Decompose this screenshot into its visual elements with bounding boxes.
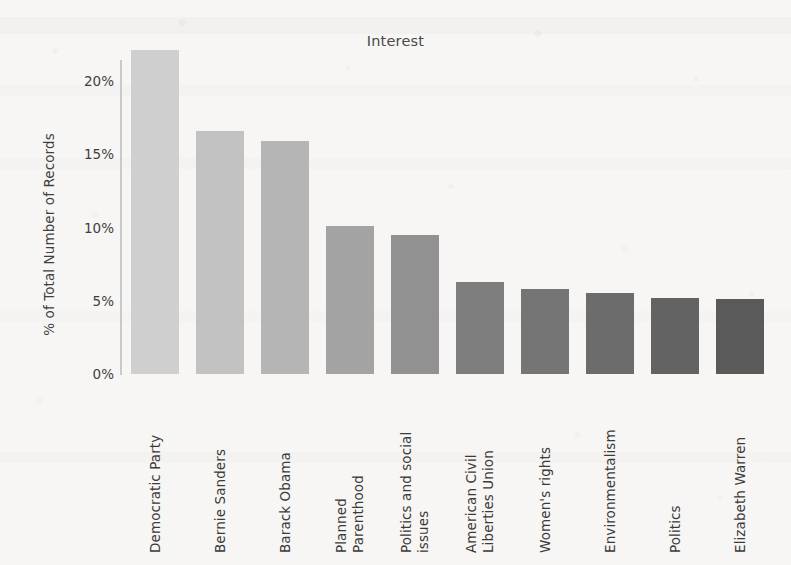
bar[interactable]: [521, 289, 569, 374]
x-axis-tick-label[interactable]: Politics: [642, 378, 707, 563]
y-axis-tick-label: 10%: [54, 220, 114, 236]
x-axis-tick-labels: Democratic PartyBernie SandersBarack Oba…: [122, 378, 772, 563]
x-axis-tick-label[interactable]: Bernie Sanders: [187, 378, 252, 563]
x-axis-tick-label-line: Politics and social: [398, 432, 415, 553]
bar[interactable]: [131, 50, 179, 374]
x-axis-tick-label-line: Women's rights: [536, 447, 553, 553]
bar[interactable]: [196, 131, 244, 374]
x-axis-tick-label-line: Democratic Party: [146, 435, 163, 553]
x-axis-tick-label-line: American Civil: [463, 454, 480, 553]
y-axis-tick-label: 0%: [54, 366, 114, 382]
bar[interactable]: [651, 298, 699, 374]
x-axis-tick-label[interactable]: Women's rights: [512, 378, 577, 563]
x-axis-tick-label-line: Elizabeth Warren: [731, 437, 748, 553]
x-axis-tick-label-line: Politics: [666, 505, 683, 553]
x-axis-tick-label[interactable]: Politics and socialissues: [382, 378, 447, 563]
bar[interactable]: [261, 141, 309, 374]
bar[interactable]: [456, 282, 504, 374]
x-axis-tick-label-line: Bernie Sanders: [211, 449, 228, 553]
x-axis-tick-label[interactable]: Democratic Party: [122, 378, 187, 563]
x-axis-tick-label[interactable]: Elizabeth Warren: [707, 378, 772, 563]
bar[interactable]: [586, 293, 634, 374]
bar[interactable]: [326, 226, 374, 374]
x-axis-tick-label-line: Parenthood: [350, 475, 367, 553]
x-axis-tick-label[interactable]: Environmentalism: [577, 378, 642, 563]
x-axis-tick-label-line: Environmentalism: [601, 429, 618, 553]
x-axis-tick-label-line: Barack Obama: [276, 452, 293, 553]
x-axis-tick-label-line: issues: [415, 511, 432, 553]
bar-series: [122, 40, 772, 374]
bar-chart: Interest % of Total Number of Records 0%…: [0, 0, 791, 565]
x-axis-tick-label-line: Planned: [333, 498, 350, 553]
x-axis-tick-label-line: Liberties Union: [480, 450, 497, 553]
bar[interactable]: [716, 299, 764, 374]
y-axis-tick-label: 5%: [54, 293, 114, 309]
y-axis-tick-label: 15%: [54, 146, 114, 162]
x-axis-tick-label[interactable]: Barack Obama: [252, 378, 317, 563]
x-axis-tick-label[interactable]: PlannedParenthood: [317, 378, 382, 563]
x-axis-tick-label[interactable]: American CivilLiberties Union: [447, 378, 512, 563]
bar[interactable]: [391, 235, 439, 374]
y-axis-tick-label: 20%: [54, 73, 114, 89]
